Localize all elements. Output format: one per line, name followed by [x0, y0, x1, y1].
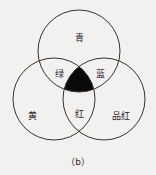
region-label-cyan: 青 [75, 34, 84, 43]
region-label-magenta: 品红 [112, 112, 130, 121]
venn-diagram-figure: 青 绿 蓝 黄 红 品红 （b） [0, 0, 156, 175]
region-label-yellow: 黄 [28, 112, 37, 121]
figure-caption: （b） [0, 156, 156, 168]
region-label-blue: 蓝 [96, 70, 105, 79]
region-label-green: 绿 [55, 70, 64, 79]
venn-diagram-canvas [0, 0, 156, 156]
region-label-red: 红 [75, 110, 84, 119]
